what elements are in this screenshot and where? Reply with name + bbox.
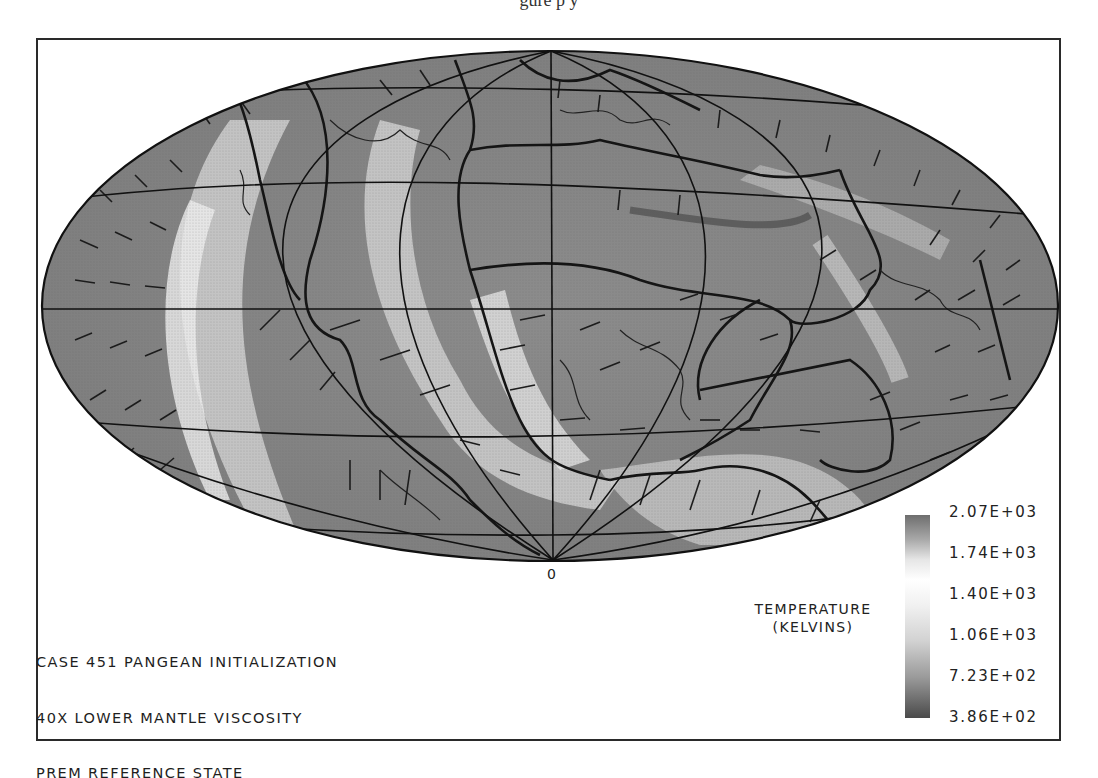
colorbar-tick-label: 7.23E+02 xyxy=(949,667,1038,685)
info-line-reference: PREM REFERENCE STATE xyxy=(36,764,384,778)
colorbar xyxy=(905,515,930,718)
colorbar-tick-label: 1.06E+03 xyxy=(949,626,1038,644)
info-line-case: CASE 451 PANGEAN INITIALIZATION xyxy=(36,653,384,672)
colorbar-title-line1: TEMPERATURE xyxy=(745,600,881,618)
colorbar-tick-label: 2.07E+03 xyxy=(949,503,1038,521)
colorbar-tick-label: 3.86E+02 xyxy=(949,708,1038,726)
center-longitude-label: 0 xyxy=(547,566,556,582)
colorbar-tick-label: 1.40E+03 xyxy=(949,585,1038,603)
colorbar-tick-label: 1.74E+03 xyxy=(949,544,1038,562)
run-info-block: CASE 451 PANGEAN INITIALIZATION 40X LOWE… xyxy=(36,616,384,778)
info-line-viscosity: 40X LOWER MANTLE VISCOSITY xyxy=(36,709,384,728)
colorbar-title: TEMPERATURE (KELVINS) xyxy=(745,600,881,636)
colorbar-title-line2: (KELVINS) xyxy=(745,618,881,636)
